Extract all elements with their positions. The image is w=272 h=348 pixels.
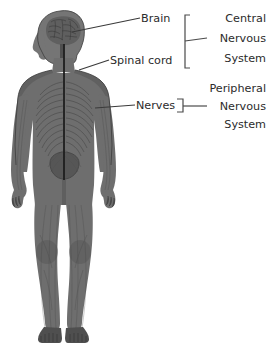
pns-line-1: Peripheral: [209, 82, 266, 95]
pns-line-2: Nervous: [220, 100, 266, 113]
label-spinal-cord: Spinal cord: [110, 54, 172, 67]
pns-line-3: System: [224, 118, 266, 131]
cns-line-2: Nervous: [220, 32, 266, 45]
cns-line-3: System: [224, 52, 266, 65]
label-nerves: Nerves: [136, 99, 175, 112]
left-knee: [36, 240, 58, 264]
diagram-canvas: Brain Spinal cord Nerves Central Nervous…: [0, 0, 272, 348]
right-knee: [69, 240, 91, 264]
nervous-system-diagram: Brain Spinal cord Nerves Central Nervous…: [0, 0, 272, 348]
label-brain: Brain: [141, 12, 170, 25]
torso-center-line: [62, 178, 66, 205]
cns-line-1: Central: [225, 12, 266, 25]
